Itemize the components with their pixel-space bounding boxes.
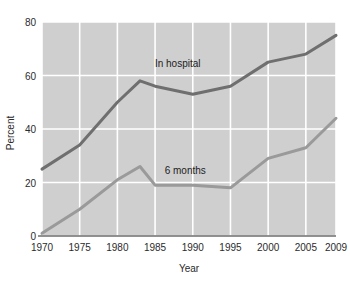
x-tick-label: 1975 [69,242,92,253]
x-tick-label: 1990 [182,242,205,253]
series-label-0: In hospital [155,58,201,69]
y-tick-label: 60 [25,71,37,82]
series-label-1: 6 months [165,165,206,176]
x-tick-label: 1970 [31,242,54,253]
y-axis-title: Percent [5,116,16,151]
line-chart: 020406080 197019751980198519901995200020… [0,0,350,281]
y-tick-label: 80 [25,17,37,28]
x-tick-label: 1995 [219,242,242,253]
y-tick-label: 20 [25,178,37,189]
y-tick-label: 0 [30,231,36,242]
chart-container: 020406080 197019751980198519901995200020… [0,0,350,281]
x-tick-label: 2005 [295,242,318,253]
y-tick-label: 40 [25,124,37,135]
x-axis-tick-labels: 197019751980198519901995200020052009 [31,242,348,253]
x-tick-label: 2009 [325,242,348,253]
x-tick-label: 1985 [144,242,167,253]
x-tick-label: 2000 [257,242,280,253]
x-tick-label: 1980 [106,242,129,253]
x-axis-title: Year [179,263,200,274]
